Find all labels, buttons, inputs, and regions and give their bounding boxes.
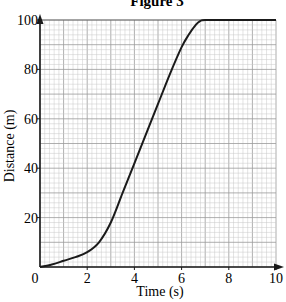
x-tick-label: 10 xyxy=(269,271,283,286)
axes xyxy=(37,14,285,271)
chart-title: Figure 3 xyxy=(130,0,183,9)
grid xyxy=(40,20,276,267)
y-tick-label: 60 xyxy=(24,112,38,127)
distance-time-chart: 0246810 20406080100 Figure 3 Time (s) Di… xyxy=(0,0,286,302)
x-tick-label: 2 xyxy=(84,271,91,286)
y-tick-label: 40 xyxy=(24,161,38,176)
x-tick-label: 0 xyxy=(32,271,39,286)
y-tick-label: 80 xyxy=(24,62,38,77)
x-axis-label: Time (s) xyxy=(136,284,184,300)
x-tick-label: 8 xyxy=(225,271,232,286)
y-tick-label: 20 xyxy=(24,211,38,226)
y-axis-label: Distance (m) xyxy=(2,109,18,182)
y-tick-label: 100 xyxy=(17,13,38,28)
y-tick-labels: 20406080100 xyxy=(17,13,40,226)
